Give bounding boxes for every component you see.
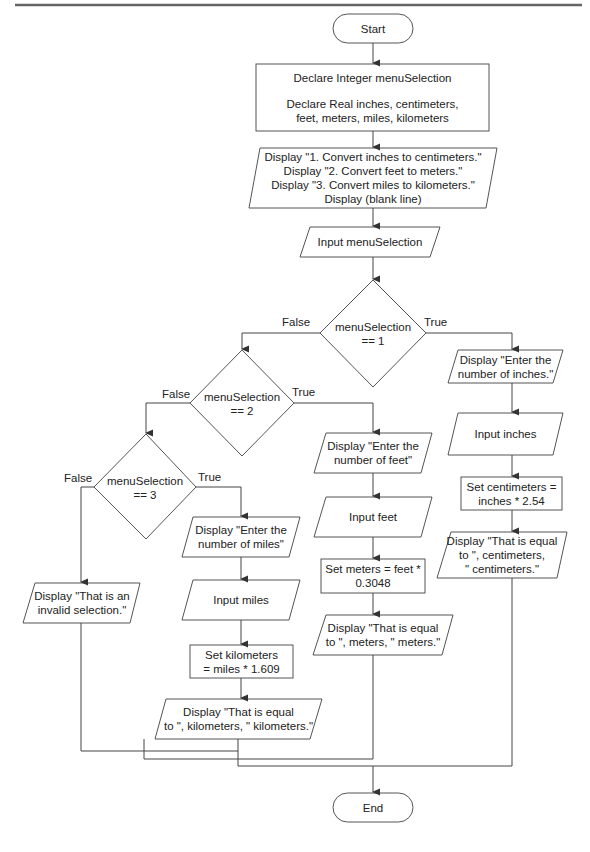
inches-calc-text: Set centimeters = inches * 2.54 — [467, 480, 557, 508]
inches-input-text: Input inches — [474, 427, 536, 441]
feet-input: Input feet — [314, 497, 432, 537]
end-label: End — [363, 801, 383, 815]
miles-input-text: Input miles — [213, 593, 269, 607]
decision-2: menuSelection == 2 — [190, 376, 294, 432]
end-terminal: End — [333, 793, 413, 822]
declare-process: Declare Integer menuSelection Declare Re… — [256, 64, 489, 131]
input-menu-selection: Input menuSelection — [300, 227, 440, 257]
inches-prompt-text: Display "Enter the number of inches." — [458, 353, 554, 381]
feet-prompt-output: Display "Enter the number of feet" — [314, 433, 432, 473]
inches-result-text: Display "That is equal to ", centimeters… — [447, 534, 558, 576]
miles-input: Input miles — [182, 580, 300, 620]
start-label: Start — [361, 22, 385, 36]
menu-display-text: Display "1. Convert inches to centimeter… — [264, 150, 481, 206]
declare-integer-text: Declare Integer menuSelection — [294, 71, 452, 85]
miles-result-text: Display "That is equal to ", kilometers,… — [164, 705, 313, 733]
feet-calc-process: Set meters = feet * 0.3048 — [321, 559, 425, 593]
miles-prompt-output: Display "Enter the number of miles" — [182, 517, 300, 557]
decision2-true-label: True — [292, 386, 315, 399]
invalid-selection-text: Display "That is an invalid selection." — [34, 589, 129, 617]
decision3-text: menuSelection == 3 — [107, 474, 183, 502]
start-terminal: Start — [333, 14, 413, 43]
inches-calc-process: Set centimeters = inches * 2.54 — [461, 477, 562, 510]
feet-result-text: Display "That is equal to ", meters, " m… — [326, 621, 441, 649]
decision1-false-label: False — [282, 316, 310, 329]
decision1-true-label: True — [424, 316, 447, 329]
inches-prompt-output: Display "Enter the number of inches." — [448, 350, 563, 383]
miles-calc-text: Set kilometers = miles * 1.609 — [203, 648, 279, 676]
feet-result-output: Display "That is equal to ", meters, " m… — [314, 615, 452, 655]
inches-result-output: Display "That is equal to ", centimeters… — [440, 532, 564, 578]
decision-1: menuSelection == 1 — [320, 306, 426, 362]
decision-3: menuSelection == 3 — [94, 460, 196, 516]
miles-calc-process: Set kilometers = miles * 1.609 — [190, 645, 293, 678]
decision2-false-label: False — [162, 388, 190, 401]
decision3-false-label: False — [64, 472, 92, 485]
decision2-text: menuSelection == 2 — [204, 390, 280, 418]
decision1-text: menuSelection == 1 — [335, 320, 411, 348]
feet-prompt-text: Display "Enter the number of feet" — [327, 439, 419, 467]
decision3-true-label: True — [198, 471, 221, 484]
menu-display-output: Display "1. Convert inches to centimeter… — [249, 148, 497, 208]
feet-calc-text: Set meters = feet * 0.3048 — [325, 562, 421, 590]
miles-prompt-text: Display "Enter the number of miles" — [195, 523, 287, 551]
inches-input: Input inches — [448, 413, 563, 455]
declare-real-text: Declare Real inches, centimeters, feet, … — [287, 97, 459, 125]
feet-input-text: Input feet — [349, 510, 397, 524]
miles-result-output: Display "That is equal to ", kilometers,… — [155, 699, 322, 739]
invalid-selection-output: Display "That is an invalid selection." — [24, 583, 140, 623]
input-menu-text: Input menuSelection — [318, 235, 423, 249]
